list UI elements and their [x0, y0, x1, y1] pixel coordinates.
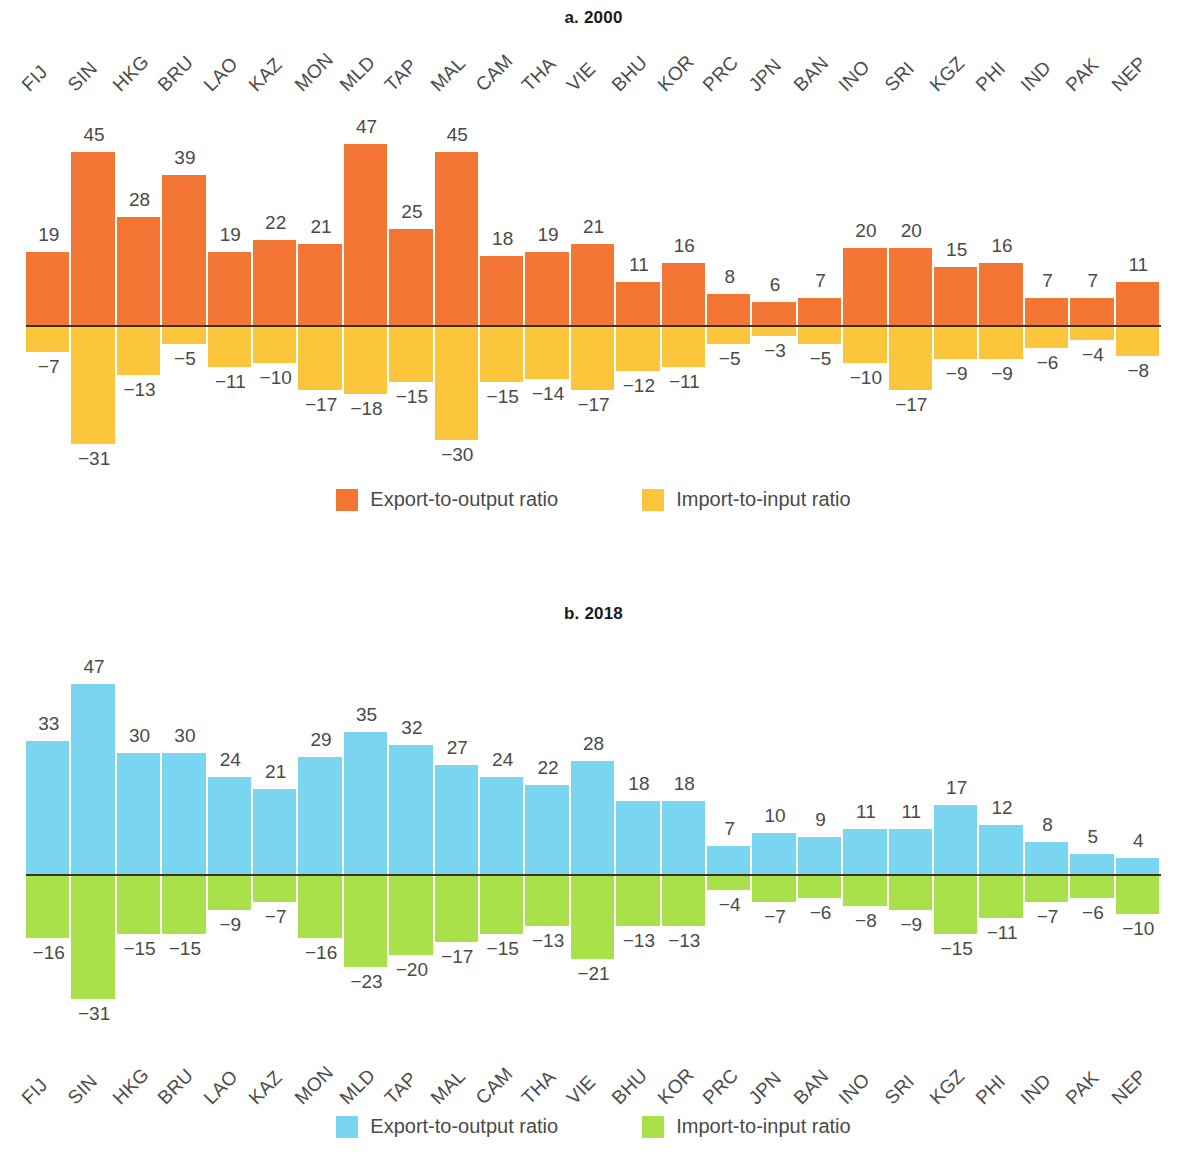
bar-group-tap-a[interactable] [389, 98, 434, 478]
bar-export-hkg-a[interactable] [117, 217, 162, 325]
bar-export-kgz-a[interactable] [934, 267, 979, 325]
bar-export-pak-a[interactable] [1070, 298, 1115, 325]
bar-group-sin-b[interactable] [71, 638, 116, 1033]
bar-export-tha-a[interactable] [525, 252, 570, 325]
bar-group-cam-b[interactable] [480, 638, 525, 1033]
bar-import-bhu-a[interactable] [616, 325, 661, 371]
category-label-kgz-a: KGZ [926, 52, 970, 96]
bar-group-mld-a[interactable] [344, 98, 389, 478]
bar-group-bru-b[interactable] [162, 638, 207, 1033]
bar-group-phi-b[interactable] [979, 638, 1024, 1033]
bar-import-fij-a[interactable] [26, 325, 71, 352]
bar-group-ban-b[interactable] [798, 638, 843, 1033]
bar-import-mal-b[interactable] [435, 874, 480, 943]
bar-export-cam-a[interactable] [480, 256, 525, 325]
bar-import-ban-b[interactable] [798, 874, 843, 898]
bar-export-ban-a[interactable] [798, 298, 843, 325]
value-label-export-kgz-b: 17 [922, 777, 992, 799]
bar-export-hkg-b[interactable] [117, 753, 162, 874]
bar-export-fij-a[interactable] [26, 252, 71, 325]
bar-export-pak-b[interactable] [1070, 854, 1115, 874]
bar-import-bru-a[interactable] [162, 325, 207, 344]
bar-import-pak-b[interactable] [1070, 874, 1115, 898]
bar-group-tha-a[interactable] [525, 98, 570, 478]
bar-group-kaz-b[interactable] [253, 638, 298, 1033]
bar-import-kaz-a[interactable] [253, 325, 298, 363]
bar-export-tap-b[interactable] [389, 745, 434, 874]
bar-export-tha-b[interactable] [525, 785, 570, 874]
bar-group-kgz-b[interactable] [934, 638, 979, 1033]
bar-export-ban-b[interactable] [798, 837, 843, 873]
bar-import-fij-b[interactable] [26, 874, 71, 939]
bar-group-mon-a[interactable] [298, 98, 343, 478]
bar-export-prc-a[interactable] [707, 294, 752, 325]
bar-export-cam-b[interactable] [480, 777, 525, 874]
bar-export-ind-a[interactable] [1025, 298, 1070, 325]
bar-export-mon-a[interactable] [298, 244, 343, 325]
legend-label-import-2000: Import-to-input ratio [676, 488, 851, 511]
bar-export-bhu-b[interactable] [616, 801, 661, 874]
bar-import-cam-a[interactable] [480, 325, 525, 383]
bar-group-kaz-a[interactable] [253, 98, 298, 478]
panel-2018-title-text: b. 2018 [564, 604, 623, 623]
value-label-export-mon-a: 21 [286, 216, 356, 238]
bar-group-cam-a[interactable] [480, 98, 525, 478]
bar-import-cam-b[interactable] [480, 874, 525, 935]
legend-item-export-2018: Export-to-output ratio [336, 1115, 558, 1138]
bar-export-lao-b[interactable] [208, 777, 253, 874]
value-label-export-nep-b: 4 [1103, 830, 1173, 852]
category-label-prc-a: PRC [699, 51, 744, 96]
bar-export-prc-b[interactable] [707, 846, 752, 874]
bar-import-mal-a[interactable] [435, 325, 480, 440]
bar-export-kaz-b[interactable] [253, 789, 298, 874]
bar-export-fij-b[interactable] [26, 741, 71, 874]
bar-group-fij-a[interactable] [26, 98, 71, 478]
bar-import-kgz-a[interactable] [934, 325, 979, 360]
bar-group-mal-a[interactable] [435, 98, 480, 478]
bar-export-sri-b[interactable] [889, 829, 934, 873]
value-label-import-nep-b: −10 [1103, 918, 1173, 940]
bar-group-lao-b[interactable] [208, 638, 253, 1033]
bar-import-tha-b[interactable] [525, 874, 570, 927]
bar-import-lao-b[interactable] [208, 874, 253, 910]
bar-group-ino-b[interactable] [843, 638, 888, 1033]
legend-swatch-green-icon [642, 1116, 664, 1138]
bar-export-tap-a[interactable] [389, 229, 434, 325]
bar-group-sri-a[interactable] [889, 98, 934, 478]
bar-group-sri-b[interactable] [889, 638, 934, 1033]
bar-import-tha-a[interactable] [525, 325, 570, 379]
bar-import-mld-a[interactable] [344, 325, 389, 394]
bar-import-kaz-b[interactable] [253, 874, 298, 902]
bar-export-nep-b[interactable] [1116, 858, 1161, 874]
bar-group-fij-b[interactable] [26, 638, 71, 1033]
bar-export-ino-b[interactable] [843, 829, 888, 873]
bar-group-bhu-a[interactable] [616, 98, 661, 478]
bar-import-pak-a[interactable] [1070, 325, 1115, 340]
legend-item-import-2000: Import-to-input ratio [642, 488, 851, 511]
bar-group-kor-a[interactable] [662, 98, 707, 478]
value-label-import-sin-a: −31 [59, 448, 129, 470]
category-label-bhu-b: BHU [608, 1064, 653, 1109]
bar-import-tap-b[interactable] [389, 874, 434, 955]
legend-label-export-2000: Export-to-output ratio [370, 488, 558, 511]
bar-import-tap-a[interactable] [389, 325, 434, 383]
bar-import-sri-b[interactable] [889, 874, 934, 910]
bar-import-prc-b[interactable] [707, 874, 752, 890]
bar-export-lao-a[interactable] [208, 252, 253, 325]
category-label-cam-a: CAM [472, 50, 518, 96]
bar-export-mal-b[interactable] [435, 765, 480, 874]
bar-import-ind-b[interactable] [1025, 874, 1070, 902]
bar-group-kgz-a[interactable] [934, 98, 979, 478]
category-label-mal-b: MAL [426, 1065, 470, 1109]
bar-export-mld-b[interactable] [344, 732, 389, 873]
bar-group-hkg-b[interactable] [117, 638, 162, 1033]
value-label-export-bru-a: 39 [150, 147, 220, 169]
bar-export-kaz-a[interactable] [253, 240, 298, 325]
bar-import-bhu-b[interactable] [616, 874, 661, 927]
bar-group-sin-a[interactable] [71, 98, 116, 478]
bar-export-bhu-a[interactable] [616, 282, 661, 324]
bar-import-sin-b[interactable] [71, 874, 116, 999]
bar-export-jpn-a[interactable] [752, 302, 797, 325]
bar-group-vie-a[interactable] [571, 98, 616, 478]
bar-import-hkg-b[interactable] [117, 874, 162, 935]
